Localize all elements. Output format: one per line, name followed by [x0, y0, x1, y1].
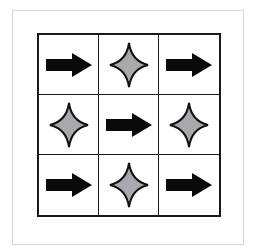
grid-cell-0-1 [99, 35, 159, 95]
grid-cell-2-0 [39, 155, 99, 215]
four-point-star-icon [169, 102, 209, 148]
grid-cell-0-2 [159, 35, 219, 95]
grid-cell-2-1 [99, 155, 159, 215]
grid-cell-1-1 [99, 95, 159, 155]
four-point-star-icon [109, 42, 149, 88]
arrow-right-icon [45, 172, 93, 198]
grid-cell-0-0 [39, 35, 99, 95]
arrow-right-icon [105, 112, 153, 138]
grid-cell-2-2 [159, 155, 219, 215]
grid-cell-1-2 [159, 95, 219, 155]
four-point-star-icon [109, 162, 149, 208]
grid-cell-1-0 [39, 95, 99, 155]
puzzle-grid [37, 33, 221, 217]
arrow-right-icon [45, 52, 93, 78]
four-point-star-icon [49, 102, 89, 148]
arrow-right-icon [165, 172, 213, 198]
arrow-right-icon [165, 52, 213, 78]
